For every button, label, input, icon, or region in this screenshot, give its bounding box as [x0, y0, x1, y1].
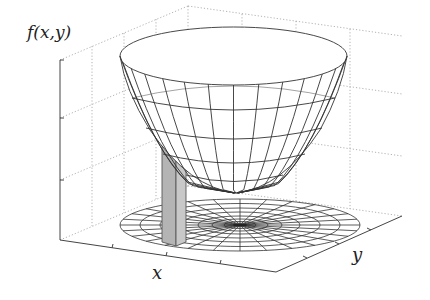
- z-axis: [60, 60, 64, 240]
- y-axis-label: y: [352, 244, 362, 265]
- x-axis-label: x: [152, 262, 162, 283]
- floor-projection: [120, 199, 360, 251]
- surface-plot: [0, 0, 430, 300]
- z-axis-label: f(x,y): [27, 22, 71, 42]
- paraboloid-surface: [120, 27, 347, 193]
